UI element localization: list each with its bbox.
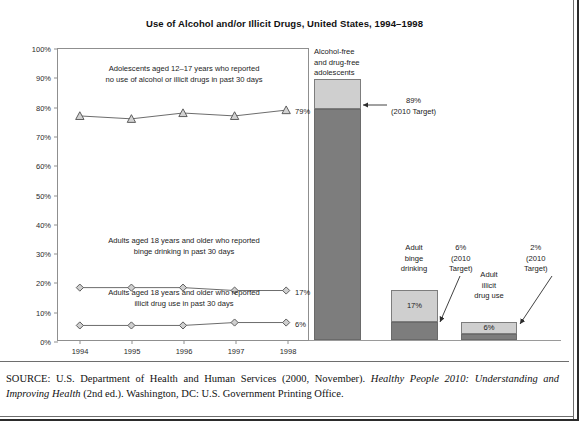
bar-segment-base: [314, 109, 361, 340]
source-divider: [0, 361, 569, 362]
bar-segment-base: [461, 334, 517, 340]
caption-line: Alcohol-free: [314, 47, 360, 58]
y-axis-tick-mark: [54, 78, 58, 79]
x-axis-tick-label: 1996: [176, 347, 193, 356]
chart-title: Use of Alcohol and/or Illicit Drugs, Uni…: [0, 18, 569, 29]
y-axis-tick-mark: [54, 312, 58, 313]
y-axis-tick-label: 20%: [36, 279, 51, 288]
bar-value-label: 6%: [461, 323, 517, 332]
note-line: Adults aged 18 years and older who repor…: [108, 235, 260, 246]
y-axis-tick-mark: [54, 224, 58, 225]
note-line: illicit drug use in past 30 days: [108, 298, 260, 309]
frame-border-right-inner: [573, 0, 574, 419]
caption-line: adolescents: [314, 68, 360, 79]
y-axis-tick-mark: [54, 49, 58, 50]
y-axis-tick-label: 40%: [36, 220, 51, 229]
x-axis-tick-label: 1997: [228, 347, 245, 356]
bar-segment-upper: [314, 79, 361, 108]
x-axis-tick-label: 1994: [72, 347, 89, 356]
caption-line: Adult: [474, 270, 504, 281]
series-end-value-label: 17%: [295, 288, 310, 297]
line-chart-plot-area: 100%90%80%70%60%50%40%30%20%10%0%1994199…: [57, 48, 309, 341]
x-axis-tick-label: 1998: [280, 347, 297, 356]
x-axis-tick-label: 1995: [124, 347, 141, 356]
target-note-line: 2%: [524, 243, 548, 254]
bar-caption: Alcohol-freeand drug-freeadolescents: [314, 47, 360, 79]
x-axis-tick-mark: [80, 340, 81, 344]
bar-value-label: 17%: [391, 301, 438, 310]
note-line: no use of alcohol or illicit drugs in pa…: [105, 74, 262, 85]
series-end-value-label: 6%: [295, 320, 306, 329]
y-axis-tick-mark: [54, 254, 58, 255]
x-axis-tick-mark: [236, 340, 237, 344]
y-axis-tick-mark: [54, 136, 58, 137]
y-axis-tick-label: 0%: [40, 338, 51, 347]
y-axis-tick-label: 50%: [36, 191, 51, 200]
caption-line: binge: [401, 254, 428, 265]
note-line: binge drinking in past 30 days: [108, 246, 260, 257]
bar-column: [314, 48, 361, 341]
target-note-line: (2010: [524, 254, 548, 265]
figure-body: 100%90%80%70%60%50%40%30%20%10%0%1994199…: [0, 40, 569, 350]
bar-chart-area: Alcohol-freeand drug-freeadolescents89%(…: [309, 48, 569, 341]
caption-line: drinking: [401, 264, 428, 275]
bar-caption: Adultbingedrinking: [401, 243, 428, 275]
figure-page: Use of Alcohol and/or Illicit Drugs, Uni…: [0, 0, 583, 427]
y-axis-tick-mark: [54, 283, 58, 284]
source-prefix: SOURCE: U.S. Department of Health and Hu…: [6, 373, 371, 384]
frame-border-bottom-outer: [0, 419, 579, 421]
bar-column: 17%: [391, 48, 438, 341]
x-axis-tick-mark: [132, 340, 133, 344]
caption-line: illicit: [474, 281, 504, 292]
y-axis-tick-mark: [54, 107, 58, 108]
y-axis-tick-label: 80%: [36, 103, 51, 112]
y-axis-tick-label: 100%: [32, 45, 51, 54]
bar-caption: Adultillicitdrug use: [474, 270, 504, 302]
y-axis-tick-label: 70%: [36, 132, 51, 141]
series-end-value-label: 79%: [295, 106, 310, 115]
source-suffix: (2nd ed.). Washington, DC: U.S. Governme…: [81, 388, 344, 399]
y-axis-tick-mark: [54, 195, 58, 196]
source-note: SOURCE: U.S. Department of Health and Hu…: [6, 371, 559, 401]
y-axis-tick-label: 30%: [36, 250, 51, 259]
frame-border-bottom-inner: [0, 416, 574, 417]
y-axis-tick-label: 60%: [36, 162, 51, 171]
note-line: Adolescents aged 12–17 years who reporte…: [105, 63, 262, 74]
x-axis-tick-mark: [184, 340, 185, 344]
caption-line: drug use: [474, 291, 504, 302]
bar-target-note: 2%(2010Target): [524, 243, 548, 275]
series-note-illicit-drug: Adults aged 18 years and older who repor…: [108, 287, 260, 309]
frame-border-right-outer: [577, 0, 579, 421]
note-line: Adults aged 18 years and older who repor…: [108, 287, 260, 298]
caption-line: and drug-free: [314, 58, 360, 69]
bar-segment-base: [391, 322, 438, 340]
y-axis-tick-label: 10%: [36, 308, 51, 317]
y-axis-tick-label: 90%: [36, 74, 51, 83]
series-note-binge-drinking: Adults aged 18 years and older who repor…: [108, 235, 260, 257]
y-axis-tick-mark: [54, 166, 58, 167]
series-note-adolescent: Adolescents aged 12–17 years who reporte…: [105, 63, 262, 85]
target-note-line: Target): [524, 264, 548, 275]
y-axis-tick-mark: [54, 342, 58, 343]
caption-line: Adult: [401, 243, 428, 254]
x-axis-tick-mark: [288, 340, 289, 344]
